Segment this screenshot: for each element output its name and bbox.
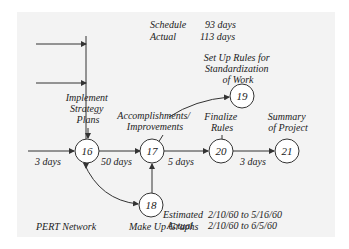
node-19: 19: [230, 84, 254, 108]
node-19-label: Set Up Rules for Standardization of Work: [204, 52, 272, 85]
edge-label-start-16: 3 days: [34, 156, 61, 167]
edge-label-20-21: 3 days: [239, 156, 266, 167]
pert-network-diagram: Schedule 93 days Actual 113 days Impleme…: [0, 0, 349, 249]
actual-label: Actual: [149, 31, 176, 42]
actual-value: 113 days: [200, 31, 235, 42]
diagram-title: PERT Network: [35, 221, 97, 232]
edge-16-18: [84, 163, 138, 204]
node-20: 20: [209, 139, 233, 163]
schedule-label: Schedule: [150, 19, 187, 30]
actual-dates-value: 2/10/60 to 6/5/60: [208, 220, 277, 231]
node-20-label: Finalize Rules: [203, 111, 239, 133]
svg-text:17: 17: [147, 145, 159, 157]
edge-label-17-20: 5 days: [168, 156, 194, 167]
svg-text:18: 18: [146, 199, 158, 211]
node-21-label: Summary of Project: [268, 111, 308, 133]
node-18: 18: [139, 193, 163, 217]
svg-text:20: 20: [216, 145, 228, 157]
actual-dates-label: Actual: [166, 220, 193, 231]
schedule-value: 93 days: [205, 19, 236, 30]
node-17-label: Accomplishments/ Improvements: [116, 110, 192, 132]
node-17: 17: [140, 139, 164, 163]
node-16-label: Implement Strategy Plans: [65, 92, 111, 125]
svg-text:19: 19: [237, 90, 249, 102]
estimated-value: 2/10/60 to 5/16/60: [208, 209, 282, 220]
estimated-label: Estimated: [162, 209, 204, 220]
node-16: 16: [75, 139, 99, 163]
svg-text:21: 21: [282, 145, 293, 157]
svg-text:16: 16: [82, 145, 94, 157]
node-21: 21: [275, 139, 299, 163]
edge-label-16-17: 50 days: [101, 156, 132, 167]
